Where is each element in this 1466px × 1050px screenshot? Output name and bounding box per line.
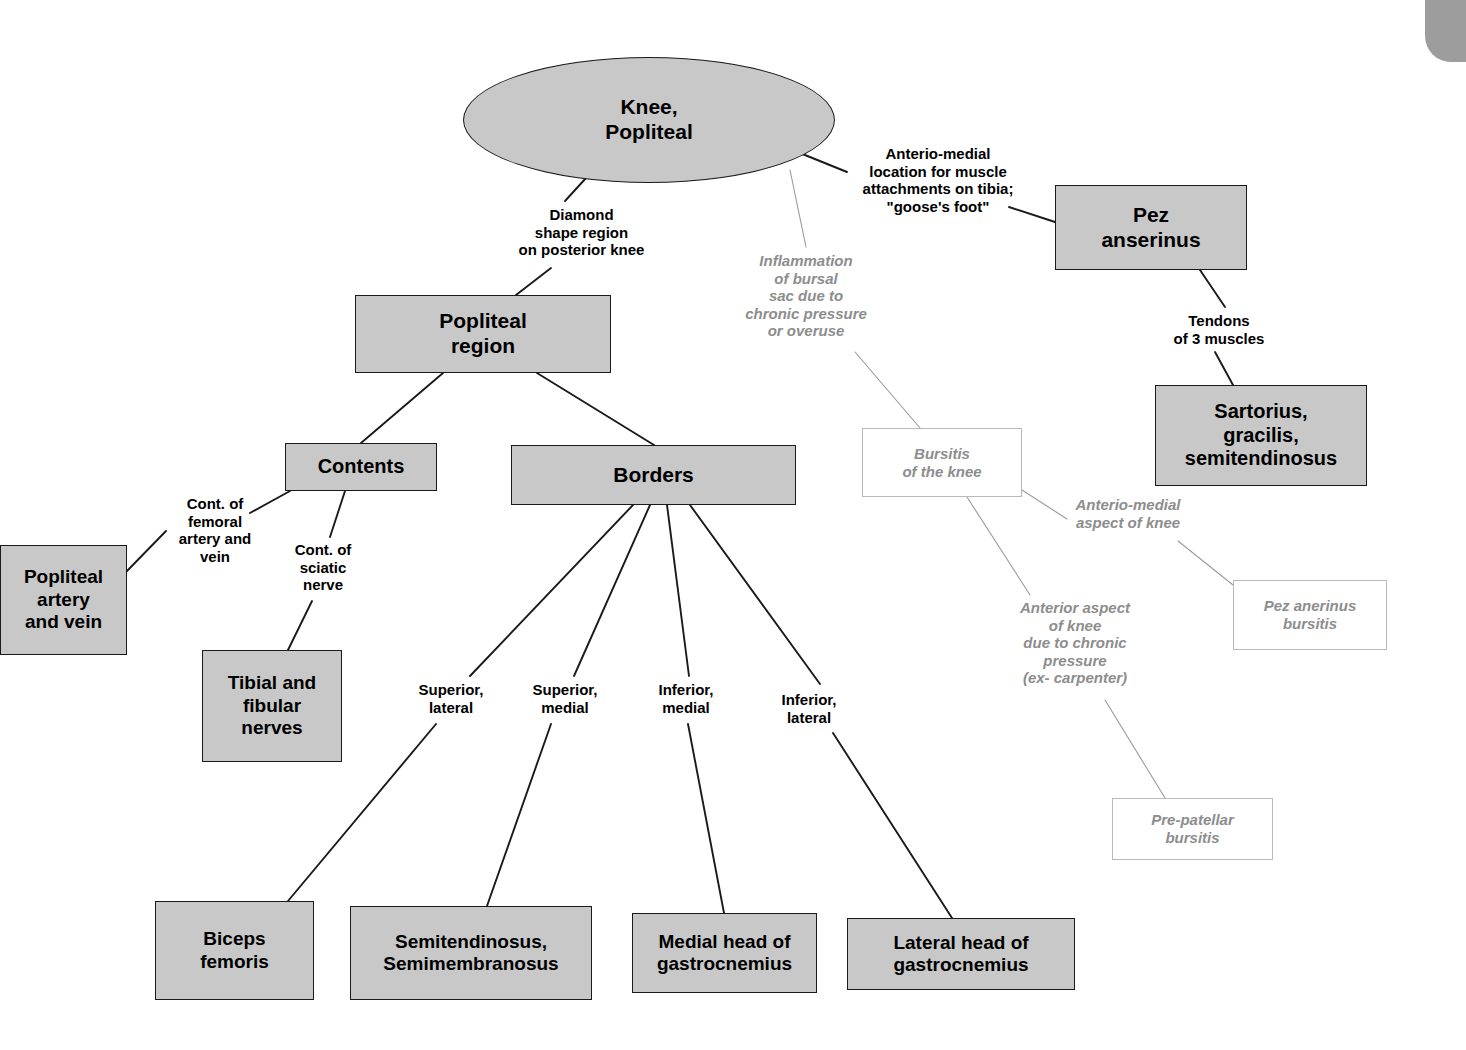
node-popliteal_artery_vein[interactable]: Popliteal artery and vein xyxy=(0,545,127,655)
edge-inflammation-to-bursitis xyxy=(855,352,920,428)
node-knee_popliteal[interactable]: Knee, Popliteal xyxy=(463,57,835,183)
node-medial_head_gastrocnemius[interactable]: Medial head of gastrocnemius xyxy=(632,913,817,993)
edge-borders-to-superior-medial xyxy=(574,505,650,676)
node-borders[interactable]: Borders xyxy=(511,445,796,505)
edge-label-inflammation_bursal: Inflammation of bursal sac due to chroni… xyxy=(725,252,887,340)
edge-popliteal-region-to-contents xyxy=(361,373,443,443)
corner-tab-decoration xyxy=(1425,0,1466,62)
edge-label-cont_sciatic: Cont. of sciatic nerve xyxy=(283,541,363,594)
node-popliteal_region[interactable]: Popliteal region xyxy=(355,295,611,373)
node-contents[interactable]: Contents xyxy=(285,443,437,491)
node-pez_anserinus_bursitis[interactable]: Pez anerinus bursitis xyxy=(1233,580,1387,650)
edge-label-diamond_shape: Diamond shape region on posterior knee xyxy=(494,206,669,259)
edge-diamond-to-popliteal-region xyxy=(516,268,551,295)
edge-borders-to-inferior-lateral xyxy=(690,505,820,684)
node-biceps_femoris[interactable]: Biceps femoris xyxy=(155,901,314,1000)
edge-cont-sciatic-to-tibial xyxy=(288,601,312,650)
concept-map-canvas: Knee, PoplitealPez anserinusPopliteal re… xyxy=(0,0,1466,1050)
edge-label-anterio_medial_location: Anterio-medial location for muscle attac… xyxy=(843,145,1033,215)
edge-knee-to-anterio-medial xyxy=(800,153,847,172)
node-sartorius_group[interactable]: Sartorius, gracilis, semitendinosus xyxy=(1155,385,1367,486)
edge-label-inferior_lateral: Inferior, lateral xyxy=(772,691,846,726)
node-prepatellar_bursitis[interactable]: Pre-patellar bursitis xyxy=(1112,798,1273,860)
edge-knee-to-inflammation xyxy=(790,170,806,247)
edge-inferior-medial-to-medial-head xyxy=(688,724,724,913)
edge-borders-to-superior-lateral xyxy=(470,505,633,676)
node-tibial_fibular_nerves[interactable]: Tibial and fibular nerves xyxy=(202,650,342,762)
edge-anterio-medial-aspect-to-pez-bursitis xyxy=(1178,541,1233,585)
node-pez_anserinus[interactable]: Pez anserinus xyxy=(1055,185,1247,270)
edge-label-inferior_medial: Inferior, medial xyxy=(648,681,724,716)
edge-cont-femoral-to-artery xyxy=(127,531,166,571)
edge-label-cont_femoral: Cont. of femoral artery and vein xyxy=(166,495,264,565)
edge-contents-to-cont-sciatic xyxy=(330,491,345,537)
edge-bursitis-to-anterior-aspect xyxy=(967,497,1030,595)
node-semitendinosus_semimembranosus[interactable]: Semitendinosus, Semimembranosus xyxy=(350,906,592,1000)
node-bursitis_knee[interactable]: Bursitis of the knee xyxy=(862,428,1022,497)
edge-label-anterior_aspect_chronic: Anterior aspect of knee due to chronic p… xyxy=(995,599,1155,687)
edge-label-superior_lateral: Superior, lateral xyxy=(410,681,492,716)
edge-pez-to-tendons xyxy=(1200,270,1225,307)
node-lateral_head_gastrocnemius[interactable]: Lateral head of gastrocnemius xyxy=(847,918,1075,990)
edge-popliteal-region-to-borders xyxy=(537,373,654,445)
edge-superior-medial-to-semitendinosus xyxy=(487,724,551,906)
edge-inferior-lateral-to-lateral-head xyxy=(833,733,952,918)
edge-label-tendons_3_muscles: Tendons of 3 muscles xyxy=(1157,312,1281,347)
edge-tendons-to-sartorius xyxy=(1215,352,1233,385)
edge-label-superior_medial: Superior, medial xyxy=(524,681,606,716)
edge-label-anterio_medial_aspect: Anterio-medial aspect of knee xyxy=(1053,496,1203,531)
edge-borders-to-inferior-medial xyxy=(667,505,689,676)
edge-anterior-aspect-to-prepatellar xyxy=(1105,700,1165,798)
